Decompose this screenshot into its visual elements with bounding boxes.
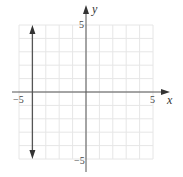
y-tick-min: −5 bbox=[74, 155, 85, 166]
axes bbox=[12, 5, 170, 172]
y-tick-max: 5 bbox=[79, 19, 84, 30]
line-bottom-arrow-icon bbox=[29, 150, 35, 159]
y-axis-label: y bbox=[91, 2, 98, 16]
y-axis-arrow-icon bbox=[83, 5, 89, 14]
coordinate-plane: y x 5 −5 −5 5 bbox=[0, 0, 183, 177]
x-tick-max: 5 bbox=[150, 94, 155, 105]
x-tick-min: −5 bbox=[13, 94, 24, 105]
x-axis-label: x bbox=[166, 93, 173, 107]
line-top-arrow-icon bbox=[29, 25, 35, 34]
